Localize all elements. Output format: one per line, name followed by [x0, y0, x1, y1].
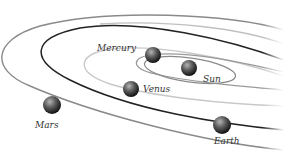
- right-edge-fade: [262, 0, 284, 161]
- orbit-earth: [41, 26, 284, 130]
- orbits-layer: [0, 0, 284, 161]
- planet-venus: [123, 81, 139, 97]
- planet-mars: [43, 96, 61, 114]
- planet-earth: [213, 116, 231, 134]
- label-mars: Mars: [35, 121, 59, 130]
- label-mercury: Mercury: [97, 44, 136, 53]
- solar-system-diagram: Mercury Sun Venus Mars Earth: [0, 0, 284, 161]
- planet-mercury: [145, 47, 161, 63]
- sun-body: [181, 60, 197, 76]
- label-earth: Earth: [214, 137, 240, 146]
- label-venus: Venus: [143, 85, 170, 94]
- label-sun: Sun: [203, 75, 221, 84]
